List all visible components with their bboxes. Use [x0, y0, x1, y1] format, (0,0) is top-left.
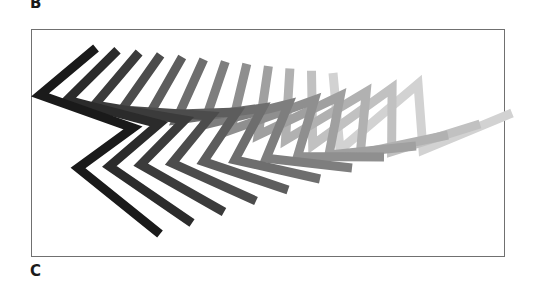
panel-label-c: C — [30, 262, 41, 280]
zigzag-band — [95, 53, 225, 213]
folding-zigzag-figure — [0, 0, 540, 290]
